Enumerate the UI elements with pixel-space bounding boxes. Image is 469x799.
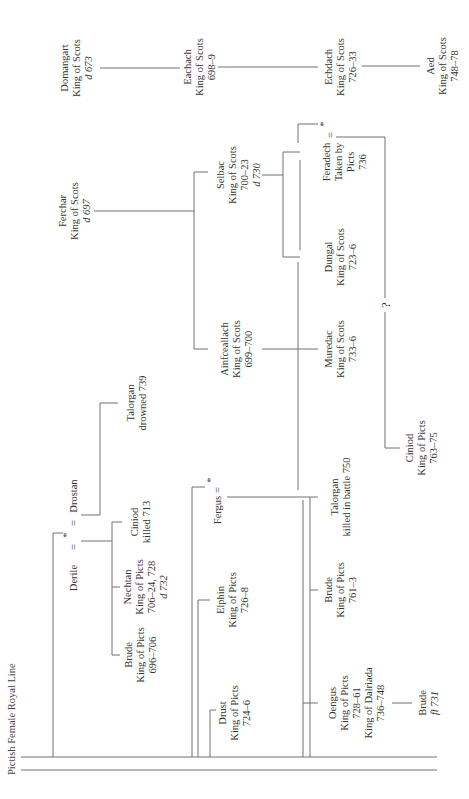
svg-text:706–24, 728: 706–24, 728 [146,561,157,614]
node-ferchar: Ferchar King of Scots d 697 [57,182,92,240]
svg-text:Drostan: Drostan [68,479,79,513]
svg-text:736: 736 [357,154,368,170]
svg-text:726–8: 726–8 [239,587,250,613]
node-dungal: Dungal King of Scots 723–6 [323,228,358,286]
svg-text:699–700: 699–700 [243,331,254,368]
svg-text:748–78: 748–78 [449,50,460,82]
uncertain-descent-mark: ? [378,302,393,308]
svg-text:King of Scots: King of Scots [227,146,238,204]
node-talorgan-750: Talorgan killed in battle 750 [329,457,352,536]
node-muredac: Muredac King of Scots 733–6 [323,320,358,378]
svg-text:Fergus: Fergus [212,496,223,524]
svg-text:Ciniod: Ciniod [129,507,140,536]
svg-text:King of Picts: King of Picts [335,562,346,617]
svg-text:Ciniod: Ciniod [404,433,415,462]
svg-text:Selbac: Selbac [215,161,226,189]
svg-text:d 697: d 697 [81,198,92,222]
svg-text:*: * [318,121,329,126]
svg-text:=: = [68,544,79,550]
node-feradech: Feradech Taken by Picts 736 = * [318,121,368,181]
svg-text:*: * [205,477,216,482]
node-drust: Drust King of Picts 724–6 [217,685,252,740]
svg-text:King of Scots: King of Scots [69,182,80,240]
svg-text:Ferchar: Ferchar [57,194,68,227]
svg-text:Brude: Brude [417,690,428,716]
svg-text:King of Scots: King of Scots [71,39,82,97]
svg-text:Talorgan: Talorgan [125,384,136,422]
svg-text:696–706: 696–706 [147,637,158,674]
node-ainfceallach: Ainfceallach King of Scots 699–700 [219,320,254,378]
svg-text:killed 713: killed 713 [141,501,152,543]
svg-text:d 730: d 730 [251,162,262,186]
svg-text:Aed: Aed [425,57,436,75]
svg-text:Eachach: Eachach [182,48,193,84]
svg-text:killed in battle 750: killed in battle 750 [341,457,352,536]
svg-text:736–748: 736–748 [375,685,386,722]
node-ciniod-713: Ciniod killed 713 [129,501,152,543]
node-echdach: Echdach King of Scots 726–33 [323,38,358,96]
svg-text:698–9: 698–9 [206,54,217,80]
node-talorgan-739: Talorgan drowned 739 [125,375,148,430]
svg-text:Ainfceallach: Ainfceallach [219,321,230,375]
svg-text:Taken by: Taken by [333,142,344,181]
svg-text:Muredac: Muredac [323,330,334,368]
svg-text:King of Dalriada: King of Dalriada [363,667,374,738]
svg-text:d 673: d 673 [83,56,94,80]
svg-text:Talorgan: Talorgan [329,478,340,516]
node-ciniod-763: Ciniod King of Picts 763–75 [404,420,439,475]
node-brude-fl731: Brude fl 731 [417,690,440,716]
node-elphin: Elphin King of Picts 726–8 [215,572,250,627]
svg-text:Picts: Picts [345,152,356,172]
svg-text:761–3: 761–3 [347,577,358,603]
svg-text:=: = [212,487,223,493]
svg-text:King of Scots: King of Scots [194,38,205,96]
svg-text:Domangart: Domangart [59,44,70,91]
svg-text:King of Picts: King of Picts [416,420,427,475]
svg-text:King of Scots: King of Scots [437,37,448,95]
node-nechtan: Nechtan King of Picts 706–24, 728 d 732 [122,559,169,614]
svg-text:Dungal: Dungal [323,241,334,272]
svg-text:King of Picts: King of Picts [135,627,146,682]
svg-text:King of Scots: King of Scots [335,38,346,96]
svg-text:=: = [68,520,79,526]
svg-text:King of Picts: King of Picts [134,559,145,614]
svg-text:726–33: 726–33 [347,51,358,83]
derile-drostan-union: Derile = * = Drostan [61,479,79,591]
svg-text:King of Scots: King of Scots [335,228,346,286]
node-domangart: Domangart King of Scots d 673 [59,39,94,97]
svg-text:Echdach: Echdach [323,48,334,85]
svg-text:763–75: 763–75 [428,432,439,464]
svg-text:drowned 739: drowned 739 [137,375,148,430]
svg-text:d 732: d 732 [158,574,169,598]
diagram-title: Pictish Female Royal Line [6,663,17,775]
node-eachach: Eachach King of Scots 698–9 [182,38,217,96]
svg-text:Drust: Drust [217,701,228,724]
svg-text:=: = [325,132,336,138]
svg-text:*: * [61,532,72,537]
svg-text:King of Picts: King of Picts [229,685,240,740]
node-oengus: Oengus King of Picts 728–61 King of Dalr… [327,667,386,738]
svg-text:Oengus: Oengus [327,687,338,719]
node-brude-761: Brude King of Picts 761–3 [323,562,358,617]
svg-text:728–61: 728–61 [351,687,362,719]
svg-text:King of Picts: King of Picts [339,675,350,730]
svg-text:700–23: 700–23 [239,159,250,191]
svg-text:Derile: Derile [68,565,79,592]
svg-text:Nechtan: Nechtan [122,569,133,605]
svg-text:King of Scots: King of Scots [231,320,242,378]
svg-text:Elphin: Elphin [215,585,226,614]
node-selbac: Selbac King of Scots 700–23 d 730 [215,146,262,204]
node-brude-696: Brude King of Picts 696–706 [123,627,158,682]
svg-text:fl 731: fl 731 [429,691,440,715]
svg-text:King of Picts: King of Picts [227,572,238,627]
svg-text:Feradech: Feradech [321,142,332,181]
svg-text:723–6: 723–6 [347,244,358,270]
pictish-royal-line-diagram: Pictish Female Royal Line Derile = * = D… [0,0,469,799]
svg-text:Brude: Brude [323,577,334,603]
svg-text:724–6: 724–6 [241,700,252,726]
svg-text:King of Scots: King of Scots [335,320,346,378]
svg-text:Brude: Brude [123,642,134,668]
node-aed: Aed King of Scots 748–78 [425,37,460,95]
fergus-union: Fergus = * [205,477,223,524]
svg-text:733–6: 733–6 [347,336,358,362]
